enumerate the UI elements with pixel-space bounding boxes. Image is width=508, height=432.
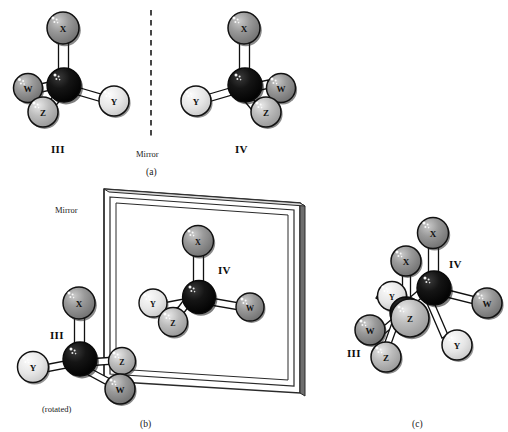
- atom-center-carbon: [63, 342, 99, 378]
- caption-panel-b: (b): [140, 420, 151, 430]
- atom-W: W: [472, 288, 504, 320]
- atom-label-Z: Z: [119, 358, 124, 367]
- atom-label-Y: Y: [193, 97, 200, 107]
- caption-panel-c: (c): [412, 420, 423, 430]
- atom-X: X: [418, 218, 451, 251]
- atom-label-W: W: [366, 326, 375, 336]
- atom-label-X: X: [60, 24, 67, 34]
- atom-Y: Y: [181, 86, 213, 118]
- atom-label-Z: Z: [383, 353, 389, 363]
- atom-center-carbon: [417, 271, 453, 307]
- atom-label-W: W: [483, 299, 492, 309]
- atom-label-Z: Z: [170, 319, 175, 328]
- atom-label-Z: Z: [40, 108, 46, 118]
- atom-label-X: X: [403, 257, 410, 267]
- mirror-label-panel-b: Mirror: [55, 206, 78, 215]
- atom-label-X: X: [76, 299, 83, 309]
- atom-Y: Y: [99, 86, 131, 118]
- atom-Z: Z: [28, 97, 60, 129]
- panel-b: Y Z W X: [18, 189, 306, 406]
- atom-center-carbon: [228, 68, 264, 104]
- panel-a: W Z Y X: [14, 10, 298, 140]
- atom-label-Y: Y: [389, 293, 395, 302]
- label-molecule-III-panel-b: III: [50, 330, 64, 341]
- atom-label-Z: Z: [407, 314, 413, 324]
- atom-Z-III: Z: [371, 342, 403, 374]
- atom-label-W: W: [116, 385, 125, 395]
- mirror-label-panel-a: Mirror: [136, 150, 159, 159]
- label-molecule-IV-panel-a: IV: [235, 144, 248, 155]
- atom-X: X: [47, 12, 81, 46]
- label-molecule-III-panel-c: III: [347, 348, 361, 359]
- molecule-III-panel-a: W Z Y X: [14, 12, 131, 129]
- atom-Z-IV: Z: [391, 299, 431, 339]
- atom-Y: Y: [18, 352, 51, 385]
- atom-label-Y: Y: [30, 363, 37, 373]
- rotated-note-panel-b: (rotated): [42, 405, 71, 414]
- molecule-III-panel-c: X Y W Z: [355, 246, 431, 374]
- atom-label-X: X: [241, 24, 248, 34]
- atom-label-W: W: [246, 304, 254, 313]
- molecule-IV-panel-a: Y W Z X: [181, 12, 297, 129]
- atom-label-W: W: [24, 84, 33, 94]
- label-molecule-IV-panel-b: IV: [218, 265, 231, 276]
- atom-label-Z: Z: [263, 108, 269, 118]
- chirality-figure-svg: W Z Y X: [0, 0, 508, 432]
- figure-canvas: W Z Y X: [0, 0, 508, 432]
- atom-X: X: [63, 287, 97, 321]
- atom-Y: Y: [442, 330, 474, 362]
- atom-label-X: X: [195, 238, 201, 247]
- atom-label-X: X: [430, 229, 437, 239]
- atom-label-W: W: [277, 84, 286, 94]
- label-molecule-IV-panel-c: IV: [449, 259, 462, 270]
- label-molecule-III-panel-a: III: [51, 144, 65, 155]
- atom-label-Y: Y: [454, 341, 461, 351]
- atom-W: W: [105, 374, 137, 406]
- caption-panel-a: (a): [146, 168, 157, 178]
- atom-label-Y: Y: [150, 300, 156, 309]
- panel-c: X W Y: [355, 218, 504, 375]
- atom-label-Y: Y: [111, 97, 118, 107]
- atom-X: X: [228, 12, 262, 46]
- atom-X: X: [391, 246, 423, 278]
